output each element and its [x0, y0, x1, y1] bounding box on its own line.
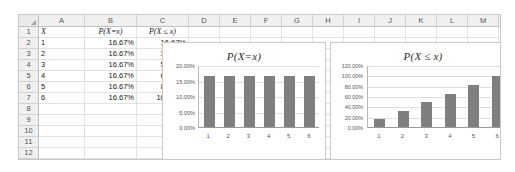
chart-pmf-bars: [199, 66, 319, 128]
row-header-11[interactable]: 11: [19, 137, 39, 148]
chart-pmf-title: P(X=x): [163, 50, 325, 62]
cell-J1[interactable]: [375, 27, 406, 38]
column-header-f[interactable]: F: [251, 15, 282, 26]
worksheet-grid[interactable]: ABCDEFGHIJKLM 1XP(X=x)P(X ≤ x)2116.67%16…: [18, 14, 501, 160]
column-header-c[interactable]: C: [137, 15, 189, 26]
cell-A4[interactable]: 3: [39, 60, 85, 71]
cell-A2[interactable]: 1: [39, 38, 85, 49]
cell-B6[interactable]: 16.67%: [85, 82, 137, 93]
cell-A7[interactable]: 6: [39, 93, 85, 104]
y-tick-label: 120.00%: [342, 63, 363, 69]
column-header-e[interactable]: E: [220, 15, 251, 26]
cell-B7[interactable]: 16.67%: [85, 93, 137, 104]
row-header-2[interactable]: 2: [19, 38, 39, 49]
chart-pmf-y-axis: 20.00%15.00%10.00%5.00%0.00%: [163, 66, 197, 128]
cell-C1[interactable]: P(X ≤ x): [137, 27, 189, 38]
chart-pmf-x-axis: 123456: [198, 129, 319, 142]
column-header-d[interactable]: D: [189, 15, 220, 26]
chart-cdf-axis-line: [368, 127, 501, 128]
cell-B11[interactable]: [85, 137, 137, 148]
y-tick-label: 80.00%: [345, 84, 363, 90]
row-header-4[interactable]: 4: [19, 60, 39, 71]
select-all-button[interactable]: [19, 15, 39, 26]
row-header-3[interactable]: 3: [19, 49, 39, 60]
cell-H1[interactable]: [313, 27, 344, 38]
column-header-l[interactable]: L: [437, 15, 468, 26]
y-tick-label: 0.00%: [179, 125, 195, 131]
y-tick-label: 10.00%: [176, 94, 195, 100]
cell-A3[interactable]: 2: [39, 49, 85, 60]
cell-L1[interactable]: [437, 27, 468, 38]
column-header-g[interactable]: G: [282, 15, 313, 26]
cell-K1[interactable]: [406, 27, 437, 38]
cell-B1[interactable]: P(X=x): [85, 27, 137, 38]
row-header-5[interactable]: 5: [19, 71, 39, 82]
cell-B2[interactable]: 16.67%: [85, 38, 137, 49]
x-tick-label: 2: [223, 133, 234, 139]
bar: [284, 76, 295, 128]
cell-A1[interactable]: X: [39, 27, 85, 38]
table-row[interactable]: 1XP(X=x)P(X ≤ x): [19, 27, 500, 38]
cell-D1[interactable]: [189, 27, 220, 38]
column-header-a[interactable]: A: [39, 15, 85, 26]
cell-A6[interactable]: 5: [39, 82, 85, 93]
cell-A11[interactable]: [39, 137, 85, 148]
cell-B9[interactable]: [85, 115, 137, 126]
row-header-12[interactable]: 12: [19, 148, 39, 159]
row-header-8[interactable]: 8: [19, 104, 39, 115]
select-all-triangle-icon: [31, 20, 36, 25]
row-header-7[interactable]: 7: [19, 93, 39, 104]
cell-B4[interactable]: 16.67%: [85, 60, 137, 71]
y-tick-label: 15.00%: [176, 79, 195, 85]
column-header-i[interactable]: I: [344, 15, 375, 26]
x-tick-label: 3: [421, 133, 432, 139]
cell-A9[interactable]: [39, 115, 85, 126]
cell-A8[interactable]: [39, 104, 85, 115]
column-header-row: ABCDEFGHIJKLM: [19, 15, 500, 27]
bar: [398, 111, 409, 128]
x-tick-label: 4: [263, 133, 274, 139]
x-tick-label: 6: [492, 133, 501, 139]
row-header-10[interactable]: 10: [19, 126, 39, 137]
chart-pmf-plot-area: [198, 66, 319, 128]
chart-cdf[interactable]: P(X ≤ x) 120.00%100.00%80.00%60.00%40.00…: [330, 42, 501, 160]
row-header-1[interactable]: 1: [19, 27, 39, 38]
cell-B3[interactable]: 16.67%: [85, 49, 137, 60]
cell-M1[interactable]: [468, 27, 499, 38]
column-header-b[interactable]: B: [85, 15, 137, 26]
y-tick-label: 5.00%: [179, 110, 195, 116]
cell-A10[interactable]: [39, 126, 85, 137]
x-tick-label: 3: [243, 133, 254, 139]
column-header-k[interactable]: K: [406, 15, 437, 26]
chart-cdf-y-axis: 120.00%100.00%80.00%60.00%40.00%20.00%0.…: [331, 66, 365, 128]
bar: [445, 94, 456, 128]
cell-F1[interactable]: [251, 27, 282, 38]
cell-B10[interactable]: [85, 126, 137, 137]
chart-pmf[interactable]: P(X=x) 20.00%15.00%10.00%5.00%0.00% 1234…: [162, 42, 326, 160]
cell-B5[interactable]: 16.67%: [85, 71, 137, 82]
bar: [421, 102, 432, 128]
column-header-h[interactable]: H: [313, 15, 344, 26]
bar: [204, 76, 215, 128]
bar: [244, 76, 255, 128]
bar: [492, 76, 501, 128]
row-header-9[interactable]: 9: [19, 115, 39, 126]
x-tick-label: 1: [203, 133, 214, 139]
cell-A5[interactable]: 4: [39, 71, 85, 82]
column-header-j[interactable]: J: [375, 15, 406, 26]
y-tick-label: 100.00%: [342, 73, 363, 79]
cell-I1[interactable]: [344, 27, 375, 38]
chart-cdf-plot-area: [367, 66, 501, 128]
cell-B12[interactable]: [85, 148, 137, 159]
row-header-6[interactable]: 6: [19, 82, 39, 93]
column-header-m[interactable]: M: [468, 15, 499, 26]
cell-G1[interactable]: [282, 27, 313, 38]
x-tick-label: 6: [303, 133, 314, 139]
cell-B8[interactable]: [85, 104, 137, 115]
y-tick-label: 40.00%: [345, 104, 363, 110]
x-tick-label: 1: [373, 133, 384, 139]
cell-A12[interactable]: [39, 148, 85, 159]
cell-E1[interactable]: [220, 27, 251, 38]
chart-cdf-x-axis: 123456: [367, 129, 501, 142]
bar: [264, 76, 275, 128]
